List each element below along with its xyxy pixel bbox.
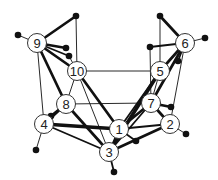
node-10: 10 (68, 62, 87, 81)
node-label: 4 (40, 117, 47, 132)
terminal-dot (168, 104, 175, 111)
node-label: 9 (33, 36, 40, 51)
edge (77, 71, 119, 129)
node-6: 6 (176, 34, 195, 53)
terminal-dot (33, 147, 40, 154)
node-7: 7 (142, 94, 161, 113)
node-8: 8 (57, 95, 76, 114)
node-3: 3 (100, 143, 119, 162)
terminal-dot (15, 32, 22, 39)
node-label: 6 (181, 36, 188, 51)
terminal-dot (66, 53, 73, 60)
node-2: 2 (161, 115, 180, 134)
node-label: 2 (166, 117, 173, 132)
node-label: 3 (105, 145, 112, 160)
node-5: 5 (151, 62, 170, 81)
node-9: 9 (28, 34, 47, 53)
terminal-dot (111, 169, 118, 176)
terminal-dot (175, 58, 182, 65)
node-label: 8 (62, 97, 69, 112)
node-label: 10 (70, 64, 84, 79)
node-4: 4 (35, 115, 54, 134)
node-1: 1 (110, 120, 129, 139)
node-label: 5 (156, 64, 163, 79)
terminal-dot (73, 13, 80, 20)
network-graph: 12345678910 (0, 0, 218, 180)
terminal-dot (183, 131, 190, 138)
terminal-dot (157, 13, 164, 20)
terminal-dot (202, 35, 209, 42)
terminal-dot (147, 44, 154, 51)
terminal-dot (63, 45, 70, 52)
node-label: 7 (147, 96, 154, 111)
terminal-dot (133, 138, 140, 145)
node-label: 1 (115, 122, 122, 137)
